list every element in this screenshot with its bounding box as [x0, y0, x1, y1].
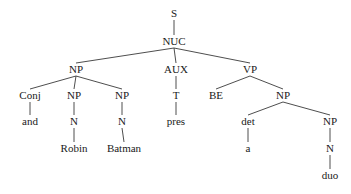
tree-edge-np1-conj [30, 76, 76, 89]
tree-edge-nuc-vp [174, 48, 250, 63]
tree-node-and: and [22, 115, 38, 127]
tree-node-be: BE [209, 89, 223, 101]
tree-node-n3: N [326, 142, 334, 154]
tree-edge-vp-be [216, 76, 250, 89]
tree-nodes: SNUCNPAUXVPConjNPNPTBENPandNNpresdetNPRo… [19, 7, 338, 181]
tree-node-s: S [171, 7, 177, 19]
tree-node-np4: NP [276, 89, 290, 101]
tree-node-conj: Conj [19, 89, 40, 101]
tree-node-nuc: NUC [162, 35, 185, 47]
tree-edge-np4-np5 [283, 102, 330, 115]
tree-node-aux: AUX [164, 63, 188, 75]
tree-edge-np1-np3 [76, 76, 122, 89]
tree-node-np3: NP [115, 89, 129, 101]
tree-node-np2: NP [67, 89, 81, 101]
tree-node-n1: N [70, 115, 78, 127]
tree-node-np1: NP [69, 63, 83, 75]
tree-node-np5: NP [323, 115, 337, 127]
tree-node-vp: VP [243, 63, 257, 75]
tree-node-t: T [173, 89, 180, 101]
tree-edge-nuc-np1 [76, 48, 174, 63]
tree-edge-vp-np4 [250, 76, 283, 89]
tree-edge-np1-np2 [74, 76, 76, 89]
syntax-tree-diagram: SNUCNPAUXVPConjNPNPTBENPandNNpresdetNPRo… [0, 0, 351, 194]
tree-edge-nuc-aux [174, 48, 176, 63]
tree-node-robin: Robin [61, 142, 88, 154]
tree-node-batman: Batman [107, 142, 142, 154]
tree-node-pres: pres [167, 115, 185, 127]
tree-edge-np4-det [248, 102, 283, 115]
tree-node-a: a [246, 142, 251, 154]
tree-edge-n2-batman [122, 128, 124, 142]
tree-node-duo: duo [322, 169, 339, 181]
tree-node-det: det [241, 115, 254, 127]
tree-node-n2: N [118, 115, 126, 127]
